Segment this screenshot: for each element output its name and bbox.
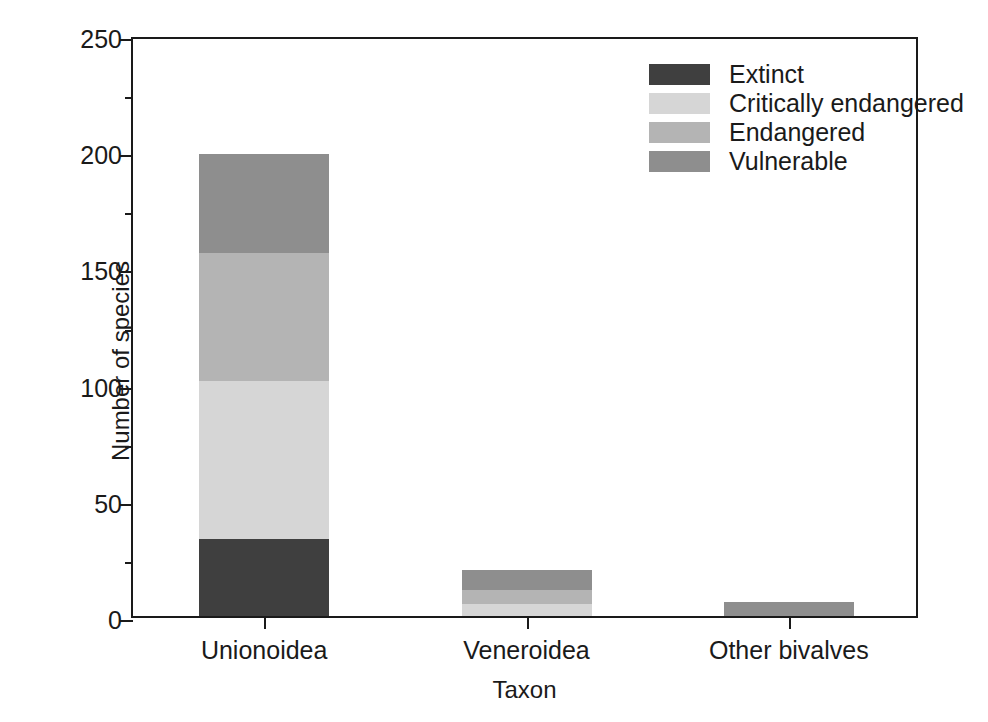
y-axis-minor-tick xyxy=(125,213,133,215)
legend-swatch-icon xyxy=(649,64,710,85)
y-axis-tick-label: 100 xyxy=(80,375,122,400)
y-axis-tick-label: 250 xyxy=(80,27,122,52)
bar-segment[interactable] xyxy=(199,381,329,539)
x-axis-title: Taxon xyxy=(131,676,918,704)
bar-segment[interactable] xyxy=(199,539,329,616)
x-axis-tick xyxy=(789,616,791,629)
y-axis-minor-tick xyxy=(125,446,133,448)
bar-segment[interactable] xyxy=(199,154,329,254)
chart-legend: ExtinctCritically endangeredEndangeredVu… xyxy=(649,60,964,176)
legend-item[interactable]: Vulnerable xyxy=(649,147,964,176)
x-axis-tick-label: Other bivalves xyxy=(709,638,869,663)
y-axis-minor-tick xyxy=(125,330,133,332)
legend-item-label: Vulnerable xyxy=(729,149,848,174)
legend-item-label: Critically endangered xyxy=(729,91,964,116)
x-axis-tick-label: Unionoidea xyxy=(201,638,328,663)
bar-segment[interactable] xyxy=(724,602,854,616)
y-axis-tick-label: 150 xyxy=(80,259,122,284)
chart-figure: Number of species 250200150100500 Uniono… xyxy=(0,0,988,722)
y-axis-tick-label: 200 xyxy=(80,143,122,168)
bar-segment[interactable] xyxy=(462,590,592,604)
legend-item-label: Endangered xyxy=(729,120,865,145)
x-axis-tick-label: Veneroidea xyxy=(463,638,590,663)
legend-swatch-icon xyxy=(649,151,710,172)
x-axis-tick xyxy=(264,616,266,629)
y-axis-minor-tick xyxy=(125,97,133,99)
y-axis-tick-label: 50 xyxy=(94,491,122,516)
bar-segment[interactable] xyxy=(199,253,329,381)
bar-segment[interactable] xyxy=(462,570,592,591)
legend-item[interactable]: Endangered xyxy=(649,118,964,147)
plot-area: 250200150100500 UnionoideaVeneroideaOthe… xyxy=(131,37,918,618)
legend-swatch-icon xyxy=(649,93,710,114)
legend-item-label: Extinct xyxy=(729,62,804,87)
bar-group[interactable] xyxy=(199,35,329,616)
y-axis-tick-label: 0 xyxy=(108,608,122,633)
bar-group[interactable] xyxy=(462,35,592,616)
legend-swatch-icon xyxy=(649,122,710,143)
x-axis-tick xyxy=(527,616,529,629)
legend-item[interactable]: Critically endangered xyxy=(649,89,964,118)
y-axis-minor-tick xyxy=(125,562,133,564)
legend-item[interactable]: Extinct xyxy=(649,60,964,89)
bar-segment[interactable] xyxy=(462,604,592,616)
